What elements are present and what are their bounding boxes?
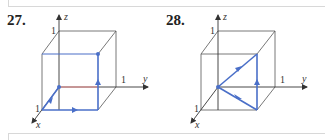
figures-canvas: z 1 1 y 1 x bbox=[0, 0, 325, 140]
point-origin-27 bbox=[57, 85, 61, 89]
figure-27: z 1 1 y 1 x bbox=[32, 11, 148, 130]
x-label-27: x bbox=[35, 119, 41, 130]
path-arrows-27 bbox=[48, 52, 101, 113]
z-tick-28: 1 bbox=[210, 25, 215, 36]
z-label-27: z bbox=[63, 11, 68, 22]
x-tick-28: 1 bbox=[194, 103, 199, 114]
x-label-28: x bbox=[194, 119, 200, 130]
arrow-icon bbox=[72, 107, 78, 113]
x-tick-27: 1 bbox=[35, 103, 40, 114]
y-tick-27: 1 bbox=[121, 74, 126, 85]
y-label-27: y bbox=[142, 73, 148, 84]
point-end-27 bbox=[96, 52, 100, 56]
y-tick-28: 1 bbox=[280, 74, 285, 85]
figure-28: z 1 1 y 1 x bbox=[191, 11, 307, 130]
arrow-icon bbox=[254, 79, 260, 85]
z-label-28: z bbox=[222, 11, 227, 22]
path-28 bbox=[218, 54, 257, 110]
arrow-icon bbox=[95, 79, 101, 85]
z-tick-27: 1 bbox=[51, 25, 56, 36]
point-origin-28 bbox=[216, 85, 220, 89]
y-label-28: y bbox=[301, 73, 307, 84]
cube-27 bbox=[42, 31, 116, 110]
